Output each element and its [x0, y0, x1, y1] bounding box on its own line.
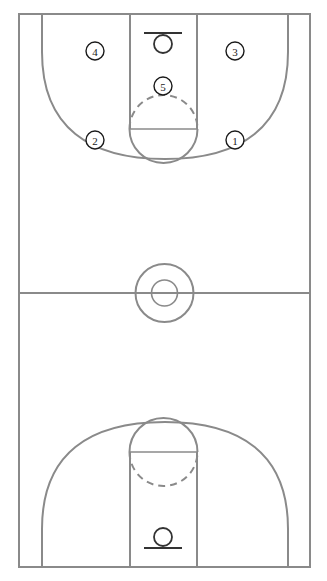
player-number-label: 2 [92, 135, 98, 147]
player-number-label: 4 [92, 46, 98, 58]
hoop-bottom [144, 528, 182, 548]
free-throw-circle-dashed-bottom [130, 452, 198, 486]
player-marker-4[interactable]: 4 [86, 42, 104, 60]
three-point-arc-top [42, 52, 288, 159]
rim-top [154, 35, 172, 53]
hoop-top [144, 33, 182, 53]
player-number-label: 3 [232, 46, 238, 58]
player-marker-2[interactable]: 2 [86, 131, 104, 149]
three-point-arc-bottom [42, 422, 288, 529]
key-lane-top [130, 14, 197, 129]
player-number-label: 1 [232, 135, 238, 147]
free-throw-circle-dashed-top [130, 95, 198, 129]
court-svg: 1 2 3 4 5 [0, 0, 327, 581]
player-marker-1[interactable]: 1 [226, 131, 244, 149]
key-lane-bottom [130, 452, 197, 567]
rim-bottom [154, 528, 172, 546]
player-marker-5[interactable]: 5 [154, 77, 172, 95]
player-marker-3[interactable]: 3 [226, 42, 244, 60]
court-boundary [19, 14, 310, 567]
basketball-court-diagram: 1 2 3 4 5 [0, 0, 327, 581]
player-number-label: 5 [160, 81, 166, 93]
